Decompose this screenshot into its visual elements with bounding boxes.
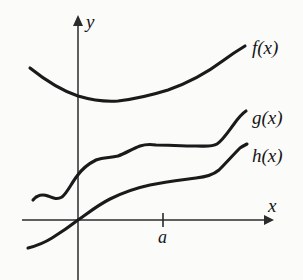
curve-f <box>30 46 245 101</box>
x-axis-label: x <box>268 196 276 215</box>
curve-label-f: f(x) <box>252 38 278 57</box>
function-graph-figure: f(x) g(x) h(x) x y a <box>0 0 303 280</box>
x-axis-arrowhead-icon <box>264 215 274 225</box>
curve-label-g: g(x) <box>252 108 283 127</box>
curve-label-h: h(x) <box>252 146 283 165</box>
tick-label-a: a <box>158 228 167 246</box>
y-axis-arrowhead-icon <box>73 15 83 26</box>
y-axis-label: y <box>86 12 94 31</box>
